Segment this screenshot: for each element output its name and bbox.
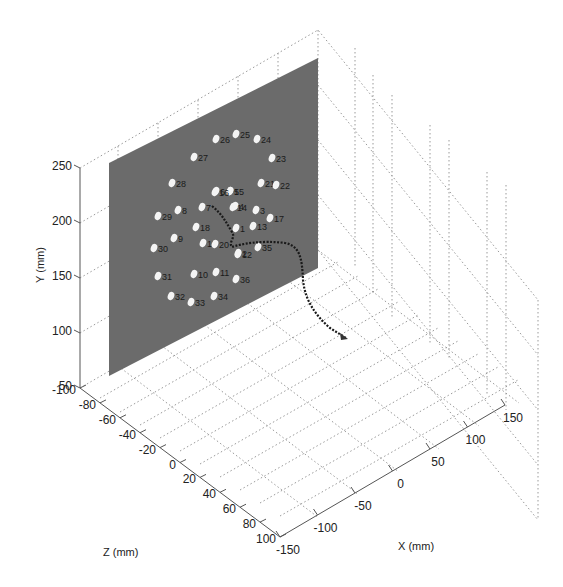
marker-label: 25 (240, 130, 250, 140)
marker-label: 11 (220, 268, 229, 278)
x-tick-label: -50 (354, 499, 372, 513)
marker-label: 18 (200, 223, 210, 233)
y-tick-label: 100 (52, 324, 72, 338)
y-axis-ticks: 50100150200250 (52, 159, 80, 393)
z-tick-label: -40 (119, 428, 137, 442)
x-tick-label: 100 (465, 433, 485, 447)
z-axis-ticks: -100-80-60-40-20020406080100 (52, 383, 286, 546)
marker-label: 31 (162, 272, 172, 282)
z-tick-label: 40 (203, 487, 217, 501)
z-tick-label: 100 (256, 532, 276, 546)
z-tick-label: -20 (139, 443, 157, 457)
z-tick-label: -80 (79, 398, 97, 412)
marker-label: 10 (198, 270, 208, 280)
marker-label: 13 (257, 222, 267, 232)
z-tick-label: 80 (243, 517, 257, 531)
marker-label: 33 (195, 298, 205, 308)
marker-label: 29 (162, 212, 172, 222)
marker-label: 36 (240, 275, 250, 285)
marker-label: 26 (220, 135, 230, 145)
marker-label: 27 (198, 153, 208, 163)
x-tick-label: 0 (397, 477, 404, 491)
x-tick-label: 50 (431, 455, 445, 469)
marker-label: 9 (178, 234, 183, 244)
marker-label: 8 (182, 206, 187, 216)
marker-label: 20 (219, 240, 229, 250)
marker-label: 24 (261, 135, 271, 145)
marker-label: 34 (218, 292, 228, 302)
x-axis-label: X (mm) (398, 540, 434, 552)
x-tick-label: -100 (313, 521, 337, 535)
y-tick-label: 250 (52, 159, 72, 173)
z-tick-label: 20 (183, 472, 197, 486)
z-tick-label: -60 (99, 413, 117, 427)
marker-label: 22 (280, 181, 290, 191)
marker-label: 14 (237, 203, 247, 213)
y-tick-label: 150 (52, 269, 72, 283)
trajectory-arrow (340, 333, 348, 340)
z-tick-label: 60 (223, 502, 237, 516)
marker-label: 28 (176, 179, 186, 189)
marker-label: 7 (206, 203, 211, 213)
x-tick-label: 150 (503, 411, 523, 425)
y-axis-label: Y (mm) (34, 247, 46, 283)
y-tick-label: 200 (52, 214, 72, 228)
marker-label: 16 (219, 188, 229, 198)
marker-label: 32 (175, 292, 185, 302)
marker-label: 35 (262, 243, 272, 253)
z-tick-label: 0 (169, 458, 176, 472)
marker-label: 17 (274, 214, 284, 224)
marker-label: 12 (242, 250, 252, 260)
marker-label: 23 (276, 154, 286, 164)
target-plane (109, 58, 318, 376)
3d-scatter-plot: 1234567891011121314151617181920212223242… (0, 0, 563, 587)
marker-label: 30 (158, 244, 168, 254)
marker-label: 1 (240, 224, 245, 234)
z-axis-label: Z (mm) (103, 546, 138, 558)
z-tick-label: -100 (52, 383, 76, 397)
marker-label: 15 (234, 187, 244, 197)
marker-label: 3 (260, 206, 265, 216)
x-tick-label: -150 (276, 543, 300, 557)
